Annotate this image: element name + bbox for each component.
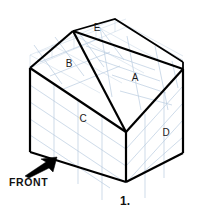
surface-label-a: A bbox=[132, 72, 139, 83]
arrow-glyph bbox=[25, 157, 57, 178]
surface-label-c: C bbox=[79, 113, 86, 124]
figure-number-label: 1. bbox=[120, 194, 130, 208]
surface-label-d: D bbox=[162, 127, 169, 138]
front-label: FRONT bbox=[9, 176, 48, 188]
surface-label-e: E bbox=[94, 22, 101, 33]
isometric-house-figure: A B C D E FRONT 1. bbox=[0, 0, 205, 216]
surface-label-b: B bbox=[66, 58, 73, 69]
